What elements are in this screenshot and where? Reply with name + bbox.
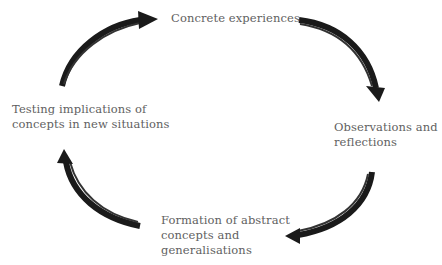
stage-label-line: Observations and	[334, 120, 438, 135]
curved-arrow-down-left-icon	[285, 172, 372, 244]
stage-label-line: Concrete experiences	[171, 11, 300, 26]
stage-label-line: Testing implications of	[12, 102, 170, 117]
curved-arrow-down-right-icon	[299, 20, 385, 102]
stage-label-line: reflections	[334, 135, 438, 150]
curved-arrow-up-right-icon	[62, 11, 158, 86]
stage-label-line: concepts in new situations	[12, 117, 170, 132]
stage-formation-abstract-concepts: Formation of abstract concepts and gener…	[161, 213, 290, 258]
stage-label-line: Formation of abstract	[161, 213, 290, 228]
learning-cycle-diagram: Concrete experiences Observations and re…	[0, 0, 442, 265]
stage-label-line: generalisations	[161, 243, 290, 258]
stage-concrete-experiences: Concrete experiences	[171, 11, 300, 26]
stage-observations-reflections: Observations and reflections	[334, 120, 438, 150]
stage-testing-implications: Testing implications of concepts in new …	[12, 102, 170, 132]
curved-arrow-up-left-icon	[57, 149, 140, 226]
stage-label-line: concepts and	[161, 228, 290, 243]
